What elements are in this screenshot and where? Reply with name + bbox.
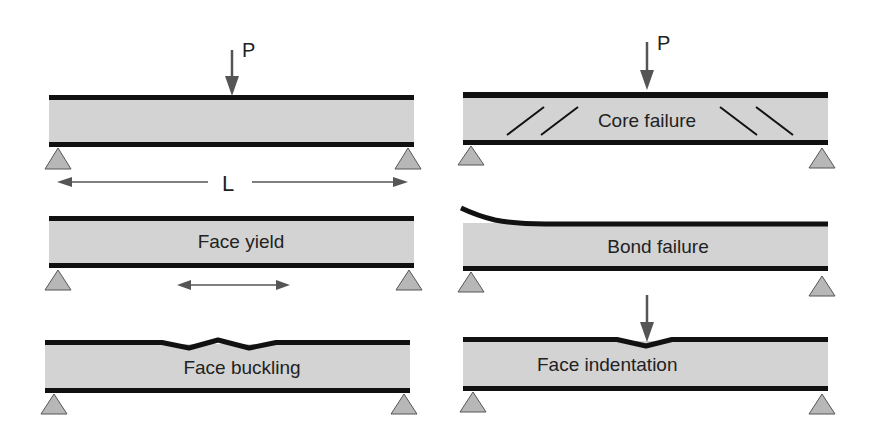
support-left-icon <box>45 148 71 169</box>
support-left-icon <box>458 146 484 165</box>
support-left-icon <box>41 394 67 414</box>
load-arrow-icon <box>640 295 654 342</box>
tension-double-arrow-icon <box>177 280 290 290</box>
support-right-icon <box>395 148 421 169</box>
top-face <box>463 92 828 98</box>
bottom-face <box>463 266 828 271</box>
panel-loaded-beam: P L <box>45 39 421 196</box>
top-face <box>49 95 414 100</box>
bottom-face <box>49 142 414 147</box>
face-buckling-label: Face buckling <box>183 357 300 378</box>
support-right-icon <box>809 394 835 414</box>
panel-core-failure: Core failure P <box>458 32 835 168</box>
debonded-top-face <box>461 208 828 224</box>
load-arrow-icon <box>640 42 654 90</box>
span-label: L <box>222 171 234 196</box>
panel-face-buckling: Face buckling <box>41 340 417 414</box>
support-left-icon <box>45 270 71 290</box>
support-right-icon <box>396 270 422 290</box>
bottom-face <box>463 140 828 145</box>
top-face <box>49 216 414 221</box>
face-yield-label: Face yield <box>198 231 285 252</box>
panel-face-yield: Face yield <box>45 216 422 290</box>
bottom-face <box>463 386 828 391</box>
load-arrow-icon <box>225 50 239 96</box>
bottom-face <box>49 263 414 268</box>
panel-bond-failure: Bond failure <box>458 208 835 296</box>
support-right-icon <box>809 276 835 296</box>
core <box>49 99 414 143</box>
face-indentation-label: Face indentation <box>537 354 678 375</box>
support-right-icon <box>809 148 835 168</box>
bond-failure-label: Bond failure <box>607 236 708 257</box>
support-left-icon <box>460 392 486 412</box>
support-right-icon <box>391 394 417 414</box>
load-label: P <box>657 32 670 54</box>
sandwich-beam-failure-diagram: P L Core failure P Face <box>0 0 877 442</box>
support-left-icon <box>458 272 484 292</box>
core-failure-label: Core failure <box>598 110 696 131</box>
load-label: P <box>242 39 255 61</box>
bottom-face <box>45 388 410 393</box>
panel-face-indentation: Face indentation <box>460 295 835 414</box>
